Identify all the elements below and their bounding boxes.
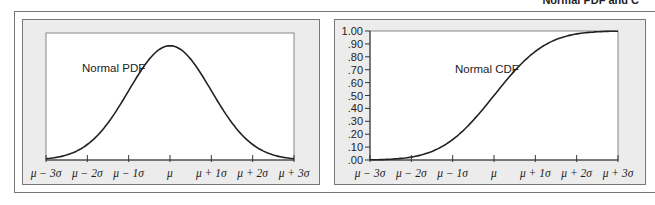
y-tick-label: 1.00 xyxy=(342,25,363,37)
x-tick-label: μ − 3σ xyxy=(354,167,387,180)
y-tick-label: .00 xyxy=(348,154,363,166)
cdf-annotation: Normal CDF xyxy=(455,63,519,75)
y-tick-label: .60 xyxy=(348,77,363,89)
x-tick-label: μ − 1σ xyxy=(436,167,469,180)
pdf-annotation: Normal PDF xyxy=(82,62,145,74)
y-tick-label: .80 xyxy=(348,51,363,63)
x-tick-label: μ − 3σ xyxy=(30,167,63,180)
x-tick-label: μ + 2σ xyxy=(560,167,593,180)
x-tick-label: μ + 1σ xyxy=(195,167,228,180)
x-tick-label: μ + 2σ xyxy=(236,167,269,180)
y-tick-label: .30 xyxy=(348,115,363,127)
y-tick-label: .90 xyxy=(348,38,363,50)
x-tick-label: μ xyxy=(490,167,497,180)
y-tick-label: .70 xyxy=(348,64,363,76)
x-tick-label: μ − 2σ xyxy=(71,167,104,180)
y-tick-label: .20 xyxy=(348,128,363,140)
cdf-chart: μ − 3σμ − 2σμ − 1σμμ + 1σμ + 2σμ + 3σ1.0… xyxy=(342,25,635,180)
plot-area xyxy=(46,33,294,160)
x-tick-label: μ + 1σ xyxy=(519,167,552,180)
x-tick-label: μ + 3σ xyxy=(278,167,311,180)
y-tick-label: .10 xyxy=(348,141,363,153)
x-tick-label: μ − 2σ xyxy=(395,167,428,180)
x-tick-label: μ + 3σ xyxy=(602,167,635,180)
pdf-chart: μ − 3σμ − 2σμ − 1σμμ + 1σμ + 2σμ + 3σNor… xyxy=(30,33,311,180)
y-tick-label: .50 xyxy=(348,90,363,102)
x-tick-label: μ − 1σ xyxy=(112,167,145,180)
x-tick-label: μ xyxy=(166,167,173,180)
y-tick-label: .40 xyxy=(348,102,363,114)
